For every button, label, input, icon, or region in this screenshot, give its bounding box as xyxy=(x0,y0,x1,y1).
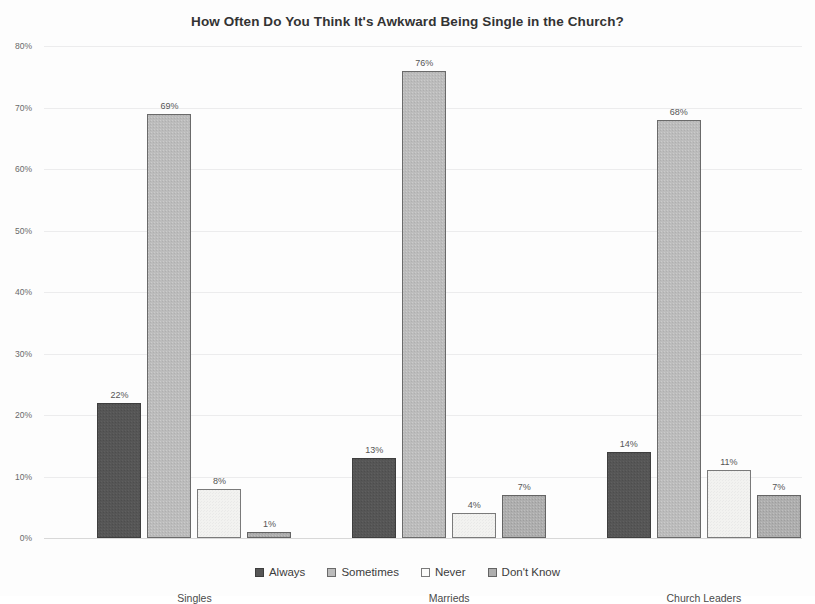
bar-group-church-leaders: 14%68%11%7% xyxy=(607,46,801,538)
y-axis-tick-label: 70% xyxy=(0,103,32,113)
bar-never-marrieds[interactable] xyxy=(452,513,496,538)
legend-item-never[interactable]: Never xyxy=(421,566,466,578)
y-axis-tick-label: 10% xyxy=(0,472,32,482)
bar-value-label: 1% xyxy=(240,519,298,529)
bar-value-label: 8% xyxy=(190,476,248,486)
bar-group-marrieds: 13%76%4%7% xyxy=(352,46,546,538)
y-axis-tick-label: 60% xyxy=(0,164,32,174)
chart-legend: AlwaysSometimesNeverDon't Know xyxy=(0,566,815,578)
bar-never-singles[interactable] xyxy=(197,489,241,538)
legend-swatch-icon xyxy=(488,568,497,577)
legend-label: Don't Know xyxy=(502,566,560,578)
bar-always-marrieds[interactable] xyxy=(352,458,396,538)
bar-value-label: 22% xyxy=(90,390,148,400)
gridline xyxy=(44,538,802,539)
bar-sometimes-church-leaders[interactable] xyxy=(657,120,701,538)
legend-item-dontknow[interactable]: Don't Know xyxy=(488,566,560,578)
legend-item-always[interactable]: Always xyxy=(255,566,305,578)
chart-title: How Often Do You Think It's Awkward Bein… xyxy=(0,14,815,29)
legend-item-sometimes[interactable]: Sometimes xyxy=(327,566,399,578)
plot-area: 0%10%20%30%40%50%60%70%80%22%69%8%1%Sing… xyxy=(44,46,802,538)
bar-value-label: 69% xyxy=(140,101,198,111)
bar-sometimes-singles[interactable] xyxy=(147,114,191,538)
y-axis-tick-label: 80% xyxy=(0,41,32,51)
x-axis-category-label: Church Leaders xyxy=(567,592,815,604)
legend-label: Always xyxy=(269,566,305,578)
legend-swatch-icon xyxy=(255,568,264,577)
bar-value-label: 13% xyxy=(345,445,403,455)
y-axis-tick-label: 50% xyxy=(0,226,32,236)
bar-value-label: 7% xyxy=(495,482,553,492)
y-axis-tick-label: 0% xyxy=(0,533,32,543)
bar-sometimes-marrieds[interactable] xyxy=(402,71,446,538)
bar-value-label: 14% xyxy=(600,439,658,449)
bar-dontknow-singles[interactable] xyxy=(247,532,291,538)
y-axis-tick-label: 20% xyxy=(0,410,32,420)
y-axis-tick-label: 40% xyxy=(0,287,32,297)
bar-never-church-leaders[interactable] xyxy=(707,470,751,538)
legend-swatch-icon xyxy=(327,568,336,577)
legend-swatch-icon xyxy=(421,568,430,577)
bar-value-label: 11% xyxy=(700,457,758,467)
bar-value-label: 68% xyxy=(650,107,708,117)
bar-group-singles: 22%69%8%1% xyxy=(97,46,291,538)
bar-always-church-leaders[interactable] xyxy=(607,452,651,538)
bar-dontknow-marrieds[interactable] xyxy=(502,495,546,538)
y-axis-tick-label: 30% xyxy=(0,349,32,359)
legend-label: Never xyxy=(435,566,466,578)
legend-label: Sometimes xyxy=(341,566,399,578)
x-axis-category-label: Singles xyxy=(57,592,331,604)
bar-always-singles[interactable] xyxy=(97,403,141,538)
bar-value-label: 4% xyxy=(445,500,503,510)
bar-value-label: 76% xyxy=(395,58,453,68)
bar-dontknow-church-leaders[interactable] xyxy=(757,495,801,538)
bar-value-label: 7% xyxy=(750,482,808,492)
x-axis-category-label: Marrieds xyxy=(312,592,586,604)
